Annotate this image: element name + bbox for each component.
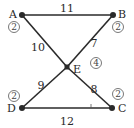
graph-nodes: A2B2E4D2C2 [7,8,126,115]
node-label: D [7,102,16,115]
node-label: C [118,102,126,115]
edge-weight-label: 12 [60,115,74,128]
node-label: E [73,63,81,76]
node-weight: 2 [115,22,121,32]
edge-d-e [22,67,67,108]
edge-weight-label: 7 [91,37,98,50]
edge-weight-label: 9 [38,79,45,92]
node-a: A2 [8,8,25,33]
node-c: C2 [109,89,126,116]
node-b: B2 [110,8,126,33]
weighted-graph-diagram: 111079812 A2B2E4D2C2 [0,0,134,128]
edge-weight-label: 11 [60,2,74,15]
node-dot [109,105,115,111]
edge-weight-label: 10 [31,41,45,54]
node-weight: 2 [11,22,17,32]
node-dot [19,12,25,18]
node-weight: 2 [11,91,17,101]
node-label: B [118,8,126,21]
node-weight: 4 [93,58,99,68]
node-d: D2 [7,91,25,116]
edge-weight-label: 8 [91,83,98,96]
node-dot [19,105,25,111]
node-label: A [8,8,18,21]
node-weight: 2 [115,89,121,99]
node-dot [65,65,70,70]
node-dot [110,12,116,18]
node-e: E4 [65,58,102,77]
graph-edges [22,15,113,108]
